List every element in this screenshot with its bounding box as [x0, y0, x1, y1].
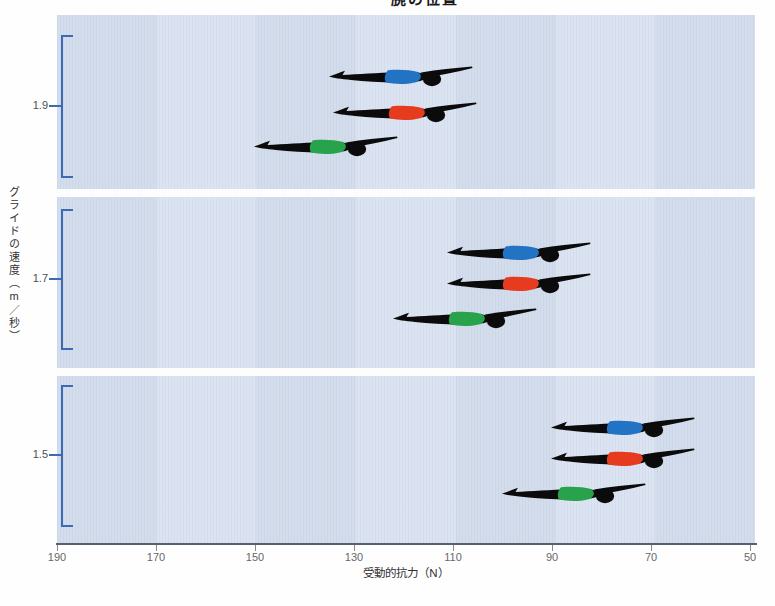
swimmer-suit	[389, 106, 425, 120]
x-tick-label: 50	[730, 551, 770, 563]
swimmer-suit	[607, 452, 643, 466]
swimmer-head	[422, 72, 440, 86]
swimmer-head	[487, 314, 505, 328]
swimmer-head	[645, 423, 663, 437]
x-tick-label: 110	[433, 551, 473, 563]
x-tick-label: 190	[37, 551, 77, 563]
swimmer-head	[348, 142, 366, 156]
speed-group-bracket	[61, 385, 73, 527]
x-tick-label: 90	[532, 551, 572, 563]
swimmer-suit	[384, 70, 420, 84]
swimmer-head	[427, 108, 445, 122]
y-tick-label: 1.7	[22, 272, 48, 284]
bracket-tick	[49, 105, 61, 107]
speed-group-bracket	[61, 209, 73, 350]
swimmer-suit	[503, 277, 539, 291]
bracket-tick	[49, 454, 61, 456]
speed-group-bracket	[61, 35, 73, 178]
swimmer-figure-green	[499, 479, 647, 507]
x-tick-label: 170	[136, 551, 176, 563]
bracket-tick	[49, 278, 61, 280]
swimmer-figure-blue	[548, 413, 696, 441]
swimmer-head	[541, 248, 559, 262]
swimmer-figure-red	[330, 98, 478, 126]
panel-gap-1	[55, 189, 757, 197]
swimmer-figure-red	[548, 444, 696, 472]
y-tick-label: 1.5	[22, 448, 48, 460]
swimmer-head	[645, 454, 663, 468]
x-tick-label: 70	[631, 551, 671, 563]
panel-gap-2	[55, 368, 757, 376]
x-axis-label: 受動的抗力（N）	[306, 564, 506, 580]
x-tick-label: 150	[235, 551, 275, 563]
swimmer-head	[541, 279, 559, 293]
swimmer-figure-green	[390, 304, 538, 332]
chart-title: 腕の位置	[352, 0, 497, 8]
y-axis-label: グライドの速度（m／秒）	[6, 186, 22, 386]
swimmer-suit	[310, 140, 346, 154]
swimmer-figure-blue	[326, 62, 474, 90]
chart-figure: 腕の位置 190170150130110907050 1.91.71.5 受動的…	[0, 0, 775, 606]
swimmer-figure-blue	[444, 238, 592, 266]
x-tick-label: 130	[334, 551, 374, 563]
swimmer-suit	[503, 246, 539, 260]
x-axis-line	[56, 543, 757, 545]
swimmer-suit	[558, 487, 594, 501]
y-tick-label: 1.9	[22, 99, 48, 111]
swimmer-head	[596, 489, 614, 503]
swimmer-figure-green	[251, 132, 399, 160]
swimmer-figure-red	[444, 269, 592, 297]
swimmer-suit	[607, 421, 643, 435]
swimmer-suit	[449, 312, 485, 326]
